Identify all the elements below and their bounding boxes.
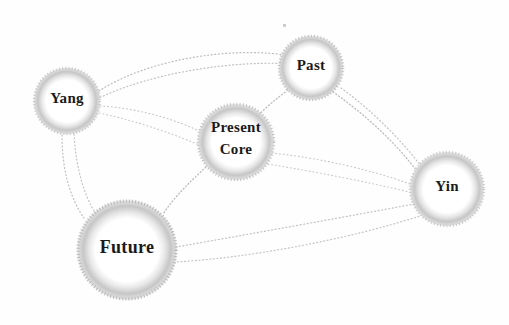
edge-yang-past-2: [97, 63, 293, 99]
edge-present-future: [163, 167, 206, 214]
edge-yang-present-2: [99, 113, 202, 146]
edge-future-yin: [176, 204, 414, 247]
node-future-hit[interactable]: [76, 199, 178, 301]
edge-yang-past: [99, 53, 292, 91]
edge-past-present: [258, 90, 288, 116]
node-past-hit[interactable]: [278, 35, 344, 101]
scan-speck-artifact: [283, 24, 286, 27]
edge-yang-present: [100, 106, 203, 133]
edge-past-yin-2: [341, 88, 421, 166]
node-present-hit[interactable]: [197, 103, 275, 181]
node-yin-hit[interactable]: [409, 151, 485, 227]
diagram-canvas: Yang Past Present Core Yin Future: [0, 0, 509, 325]
node-yang-hit[interactable]: [33, 67, 101, 135]
edge-present-yin-2: [268, 164, 409, 192]
edge-yang-future-2: [74, 134, 96, 214]
edge-present-yin: [272, 153, 410, 184]
edge-future-yin-2: [174, 216, 420, 262]
edge-past-yin: [333, 92, 416, 170]
